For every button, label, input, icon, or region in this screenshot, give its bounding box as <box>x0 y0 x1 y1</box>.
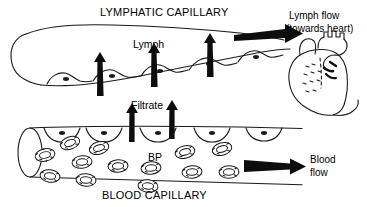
blood-flow-label-line1: Blood <box>310 154 336 165</box>
lymphatic-capillary-title: LYMPHATIC CAPILLARY <box>100 6 229 18</box>
red-blood-cells <box>34 134 239 193</box>
heart-illustration <box>289 31 358 115</box>
diagram-canvas: LYMPHATIC CAPILLARY Lymph Filtrate BP Ly… <box>0 0 367 207</box>
lymph-label: Lymph <box>133 39 164 51</box>
lymph-flow-label-line1: Lymph flow <box>289 10 339 21</box>
bp-label: BP <box>148 152 162 164</box>
blood-capillary-title: BLOOD CAPILLARY <box>102 189 207 201</box>
lymphatic-endothelial-cells <box>47 51 283 84</box>
blood-flow-arrow <box>244 159 306 175</box>
filtrate-label: Filtrate <box>131 100 163 112</box>
lymph-flow-label-line2: (towards heart) <box>286 23 353 34</box>
blood-flow-label-line2: flow <box>310 167 328 178</box>
